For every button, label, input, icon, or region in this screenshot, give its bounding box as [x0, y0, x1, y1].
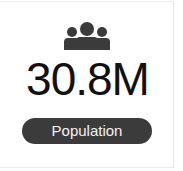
population-stat-card: 30.8M Population	[0, 1, 174, 168]
people-group-icon	[62, 22, 112, 50]
population-label-badge: Population	[22, 118, 152, 144]
population-value: 30.8M	[0, 54, 175, 104]
